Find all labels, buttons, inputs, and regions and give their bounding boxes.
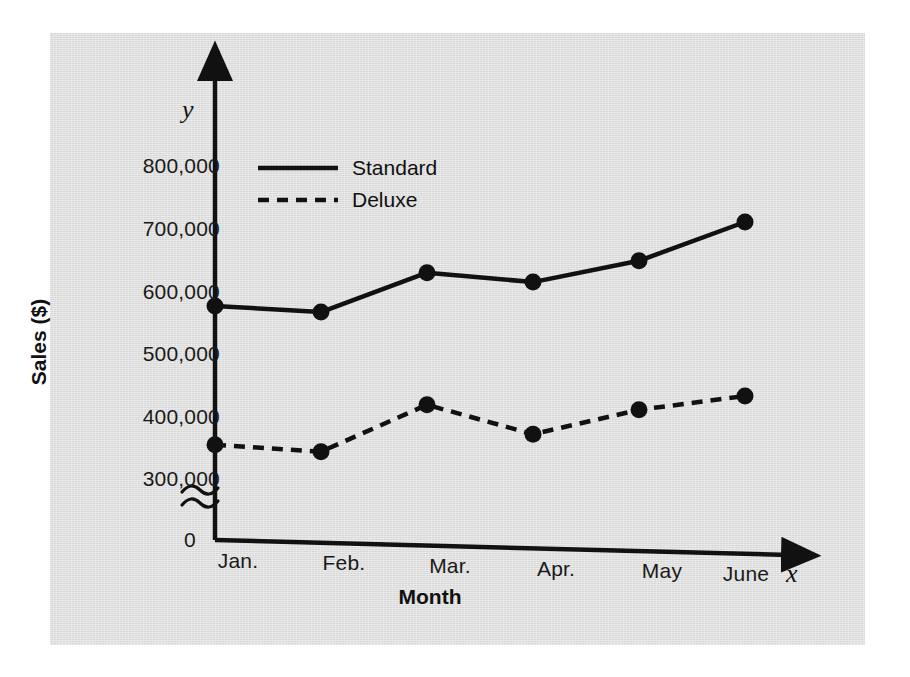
- legend-label-deluxe: Deluxe: [352, 188, 417, 212]
- data-point: [525, 274, 542, 291]
- xtick-label-june: June: [723, 562, 769, 586]
- data-point: [631, 401, 648, 418]
- x-axis: [215, 540, 790, 555]
- data-point: [631, 252, 648, 269]
- ytick-label: 700,000: [143, 217, 220, 241]
- series-line-standard: [215, 222, 745, 312]
- data-point: [419, 264, 436, 281]
- xtick-label-may: May: [642, 559, 682, 583]
- xtick-label-mar: Mar.: [429, 554, 471, 578]
- data-point: [419, 396, 436, 413]
- data-point: [525, 426, 542, 443]
- ytick-label: 400,000: [143, 405, 220, 429]
- ytick-label: 500,000: [143, 342, 220, 366]
- chart-figure: 800,000 700,000 600,000 500,000 400,000 …: [0, 0, 910, 677]
- xtick-label-apr: Apr.: [537, 557, 575, 581]
- x-axis-title: Month: [350, 585, 510, 609]
- series-layer: [207, 214, 754, 461]
- y-axis-variable-label: y: [182, 95, 194, 125]
- ytick-label: 600,000: [143, 280, 220, 304]
- series-line-deluxe: [215, 396, 745, 452]
- origin-label: 0: [184, 528, 196, 552]
- data-point: [313, 443, 330, 460]
- data-point: [207, 436, 224, 453]
- ytick-label: 300,000: [143, 467, 220, 491]
- x-axis-variable-label: x: [786, 559, 798, 589]
- data-point: [737, 388, 754, 405]
- data-point: [313, 304, 330, 321]
- xtick-label-feb: Feb.: [323, 551, 366, 575]
- data-point: [737, 214, 754, 231]
- y-axis-title: Sales ($): [27, 282, 51, 402]
- legend-label-standard: Standard: [352, 156, 437, 180]
- xtick-label-jan: Jan.: [218, 549, 259, 573]
- ytick-label: 800,000: [143, 154, 220, 178]
